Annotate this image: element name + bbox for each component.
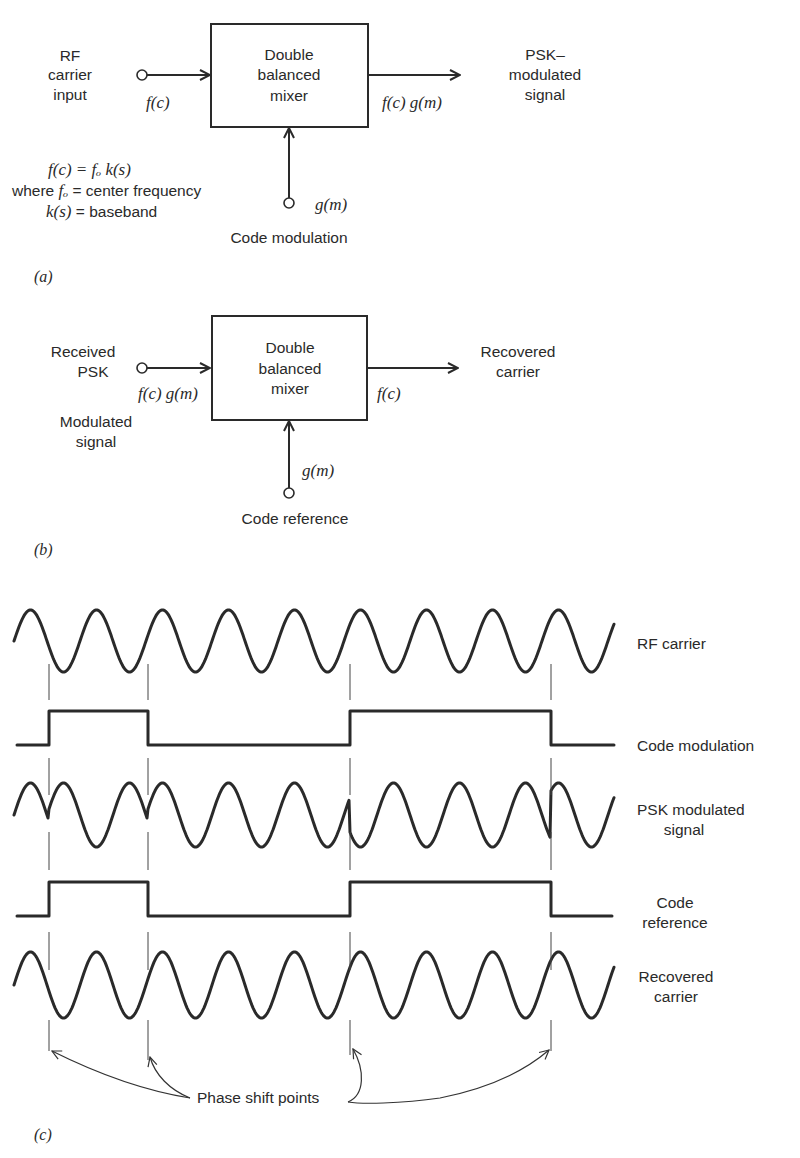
input-signal-fc: f(c)	[146, 93, 170, 112]
equation-line-2: where fₒ = center frequency	[11, 181, 201, 200]
mixer-label-2: balanced	[259, 360, 322, 377]
control-terminal-icon	[284, 488, 294, 498]
mixer-label-2: balanced	[258, 66, 321, 83]
rf-carrier-waveform	[14, 610, 614, 672]
figure-c: RF carrier Code modulation PSK modulated…	[14, 610, 754, 1144]
caption-a: (a)	[34, 268, 53, 286]
code-reference-label-1: Code	[656, 894, 693, 911]
psk-output-label-2: modulated	[509, 66, 581, 83]
code-reference-label: Code reference	[242, 510, 349, 527]
caption-b: (b)	[34, 541, 53, 559]
figure-a: RF carrier input f(c) Double balanced mi…	[11, 24, 581, 286]
rf-carrier-input-label-1: RF	[60, 47, 81, 64]
mixer-label-1: Double	[264, 46, 313, 63]
recovered-carrier-label-2: carrier	[654, 988, 698, 1005]
figure-b: Received PSK Modulated signal f(c) g(m) …	[34, 316, 555, 559]
modulated-signal-label-2: signal	[76, 433, 117, 450]
output-signal-fcgm: f(c) g(m)	[382, 93, 442, 112]
psk-output-label-3: signal	[525, 86, 566, 103]
rf-carrier-input-label-2: carrier	[48, 66, 92, 83]
control-signal-gm: g(m)	[315, 195, 347, 214]
psk-signal-waveform	[14, 783, 614, 847]
rf-carrier-label: RF carrier	[637, 635, 706, 652]
caption-c: (c)	[34, 1126, 52, 1144]
mixer-label-3: mixer	[270, 87, 308, 104]
phase-shift-points-label: Phase shift points	[197, 1089, 320, 1106]
recovered-carrier-label-2: carrier	[496, 363, 540, 380]
phase-shift-markers	[49, 664, 551, 1060]
psk-output-label-1: PSK–	[525, 46, 565, 63]
code-modulation-label: Code modulation	[230, 229, 347, 246]
input-signal-fcgm: f(c) g(m)	[138, 384, 198, 403]
recovered-carrier-label-1: Recovered	[481, 343, 556, 360]
equation-line-1: f(c) = fₒ k(s)	[48, 160, 131, 179]
mixer-label-3: mixer	[271, 380, 309, 397]
control-terminal-icon	[284, 198, 294, 208]
code-reference-label-2: reference	[642, 914, 707, 931]
psk-signal-label-2: signal	[664, 821, 705, 838]
code-modulation-waveform	[17, 711, 614, 745]
received-psk-label-1: Received	[51, 343, 116, 360]
recovered-carrier-waveform	[14, 952, 614, 1018]
mixer-label-1: Double	[265, 339, 314, 356]
control-signal-gm: g(m)	[302, 461, 334, 480]
modulated-signal-label-1: Modulated	[60, 413, 132, 430]
rf-carrier-input-label-3: input	[53, 86, 87, 103]
recovered-carrier-label-1: Recovered	[639, 968, 714, 985]
received-psk-label-2: PSK	[77, 363, 109, 380]
input-terminal-icon	[137, 70, 147, 80]
input-terminal-icon	[137, 363, 147, 373]
output-signal-fc: f(c)	[377, 384, 401, 403]
equation-line-3: k(s) = baseband	[46, 202, 157, 221]
code-modulation-label: Code modulation	[637, 737, 754, 754]
code-reference-waveform	[17, 882, 612, 916]
psk-signal-label-1: PSK modulated	[637, 801, 745, 818]
